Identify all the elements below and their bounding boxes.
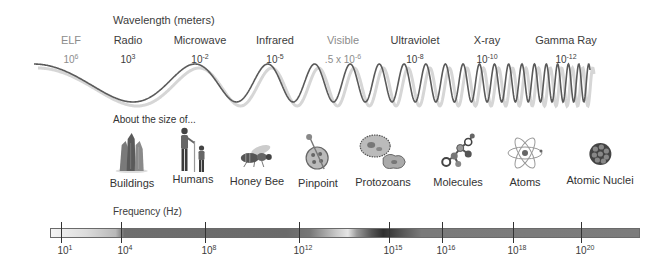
frequency-tick-label: 1012 [294,244,313,256]
humans-icon [173,127,213,173]
size-item-buildings: Buildings [110,131,155,189]
size-item-label: Atomic Nuclei [566,174,633,186]
frequency-tick-mark [299,222,300,243]
size-item-humans: Humans [173,127,214,185]
band-name: Visible [325,34,361,47]
frequency-tick-mark [61,222,62,243]
protozoans-icon [357,132,409,172]
size-item-pinpoint: Pinpoint [298,133,338,189]
honey-bee-icon [237,140,277,172]
frequency-tick-label: 1020 [576,244,595,256]
band-name: Radio [114,34,143,47]
pinpoint-icon [300,133,336,173]
frequency-tick-mark [442,222,443,243]
band-name: Microwave [174,34,227,47]
size-item-protozoans: Protozoans [355,132,411,188]
frequency-tick-mark [205,222,206,243]
frequency-tick-mark [513,222,514,243]
frequency-tick-label: 1016 [437,244,456,256]
band-name: Gamma Ray [535,34,597,47]
frequency-tick-label: 101 [57,244,72,256]
band-name: ELF [61,34,81,47]
frequency-tick-label: 1018 [508,244,527,256]
size-item-label: Protozoans [355,176,411,188]
size-item-atomic-nuclei: Atomic Nuclei [566,138,633,186]
frequency-tick-mark [581,222,582,243]
frequency-title: Frequency (Hz) [113,206,182,217]
size-item-label: Pinpoint [298,177,338,189]
frequency-bar [50,228,640,238]
size-item-label: Atoms [505,176,545,188]
band-name: Infrared [256,34,294,47]
frequency-tick-mark [121,222,122,243]
frequency-tick-label: 104 [117,244,132,256]
wavelength-title: Wavelength (meters) [113,14,215,26]
atomic-nuclei-icon [585,138,615,170]
size-item-molecules: Molecules [433,132,483,188]
atoms-icon [505,134,545,172]
size-item-atoms: Atoms [505,134,545,188]
size-item-label: Honey Bee [230,175,284,187]
wave-graphic [0,58,671,118]
size-item-label: Humans [173,173,214,185]
band-name: X-ray [474,34,500,47]
size-item-honey-bee: Honey Bee [230,140,284,187]
frequency-tick-label: 108 [201,244,216,256]
buildings-icon [114,131,150,173]
frequency-tick-label: 1015 [384,244,403,256]
size-item-label: Buildings [110,177,155,189]
molecules-icon [438,132,478,172]
size-comparison-title: About the size of... [113,114,196,125]
size-item-label: Molecules [433,176,483,188]
band-name: Ultraviolet [391,34,440,47]
frequency-tick-mark [389,222,390,243]
